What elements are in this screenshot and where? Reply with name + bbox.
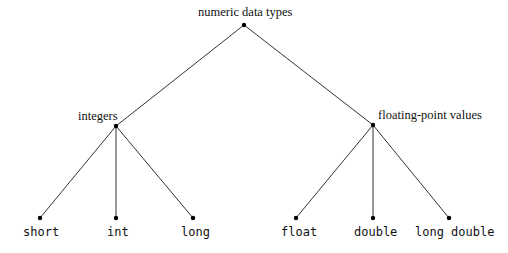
node-dot-long-double — [447, 216, 451, 220]
node-dot-integers — [114, 124, 118, 128]
leaf-long-double: long double — [415, 225, 494, 239]
leaf-short: short — [23, 225, 59, 239]
edge-integers-short — [40, 126, 116, 218]
edge-floating-float — [296, 125, 373, 218]
leaf-int: int — [107, 225, 129, 239]
node-dot-root — [242, 23, 246, 27]
node-dot-float — [294, 216, 298, 220]
node-dot-floating — [371, 123, 375, 127]
node-dot-double — [371, 216, 375, 220]
leaf-float: float — [281, 225, 317, 239]
edge-integers-long — [116, 126, 193, 218]
node-dot-int — [114, 216, 118, 220]
node-dot-long — [191, 216, 195, 220]
leaf-double: double — [354, 225, 397, 239]
edge-root-integers — [116, 25, 244, 126]
type-hierarchy-diagram: numeric data types integers floating-poi… — [0, 0, 508, 253]
floating-point-label: floating-point values — [378, 108, 482, 123]
edge-floating-long-double — [373, 125, 449, 218]
node-dot-short — [38, 216, 42, 220]
edge-root-floating — [244, 25, 373, 125]
tree-edges — [0, 0, 508, 253]
integers-label: integers — [78, 109, 118, 124]
leaf-long: long — [181, 225, 210, 239]
root-label: numeric data types — [198, 5, 292, 20]
